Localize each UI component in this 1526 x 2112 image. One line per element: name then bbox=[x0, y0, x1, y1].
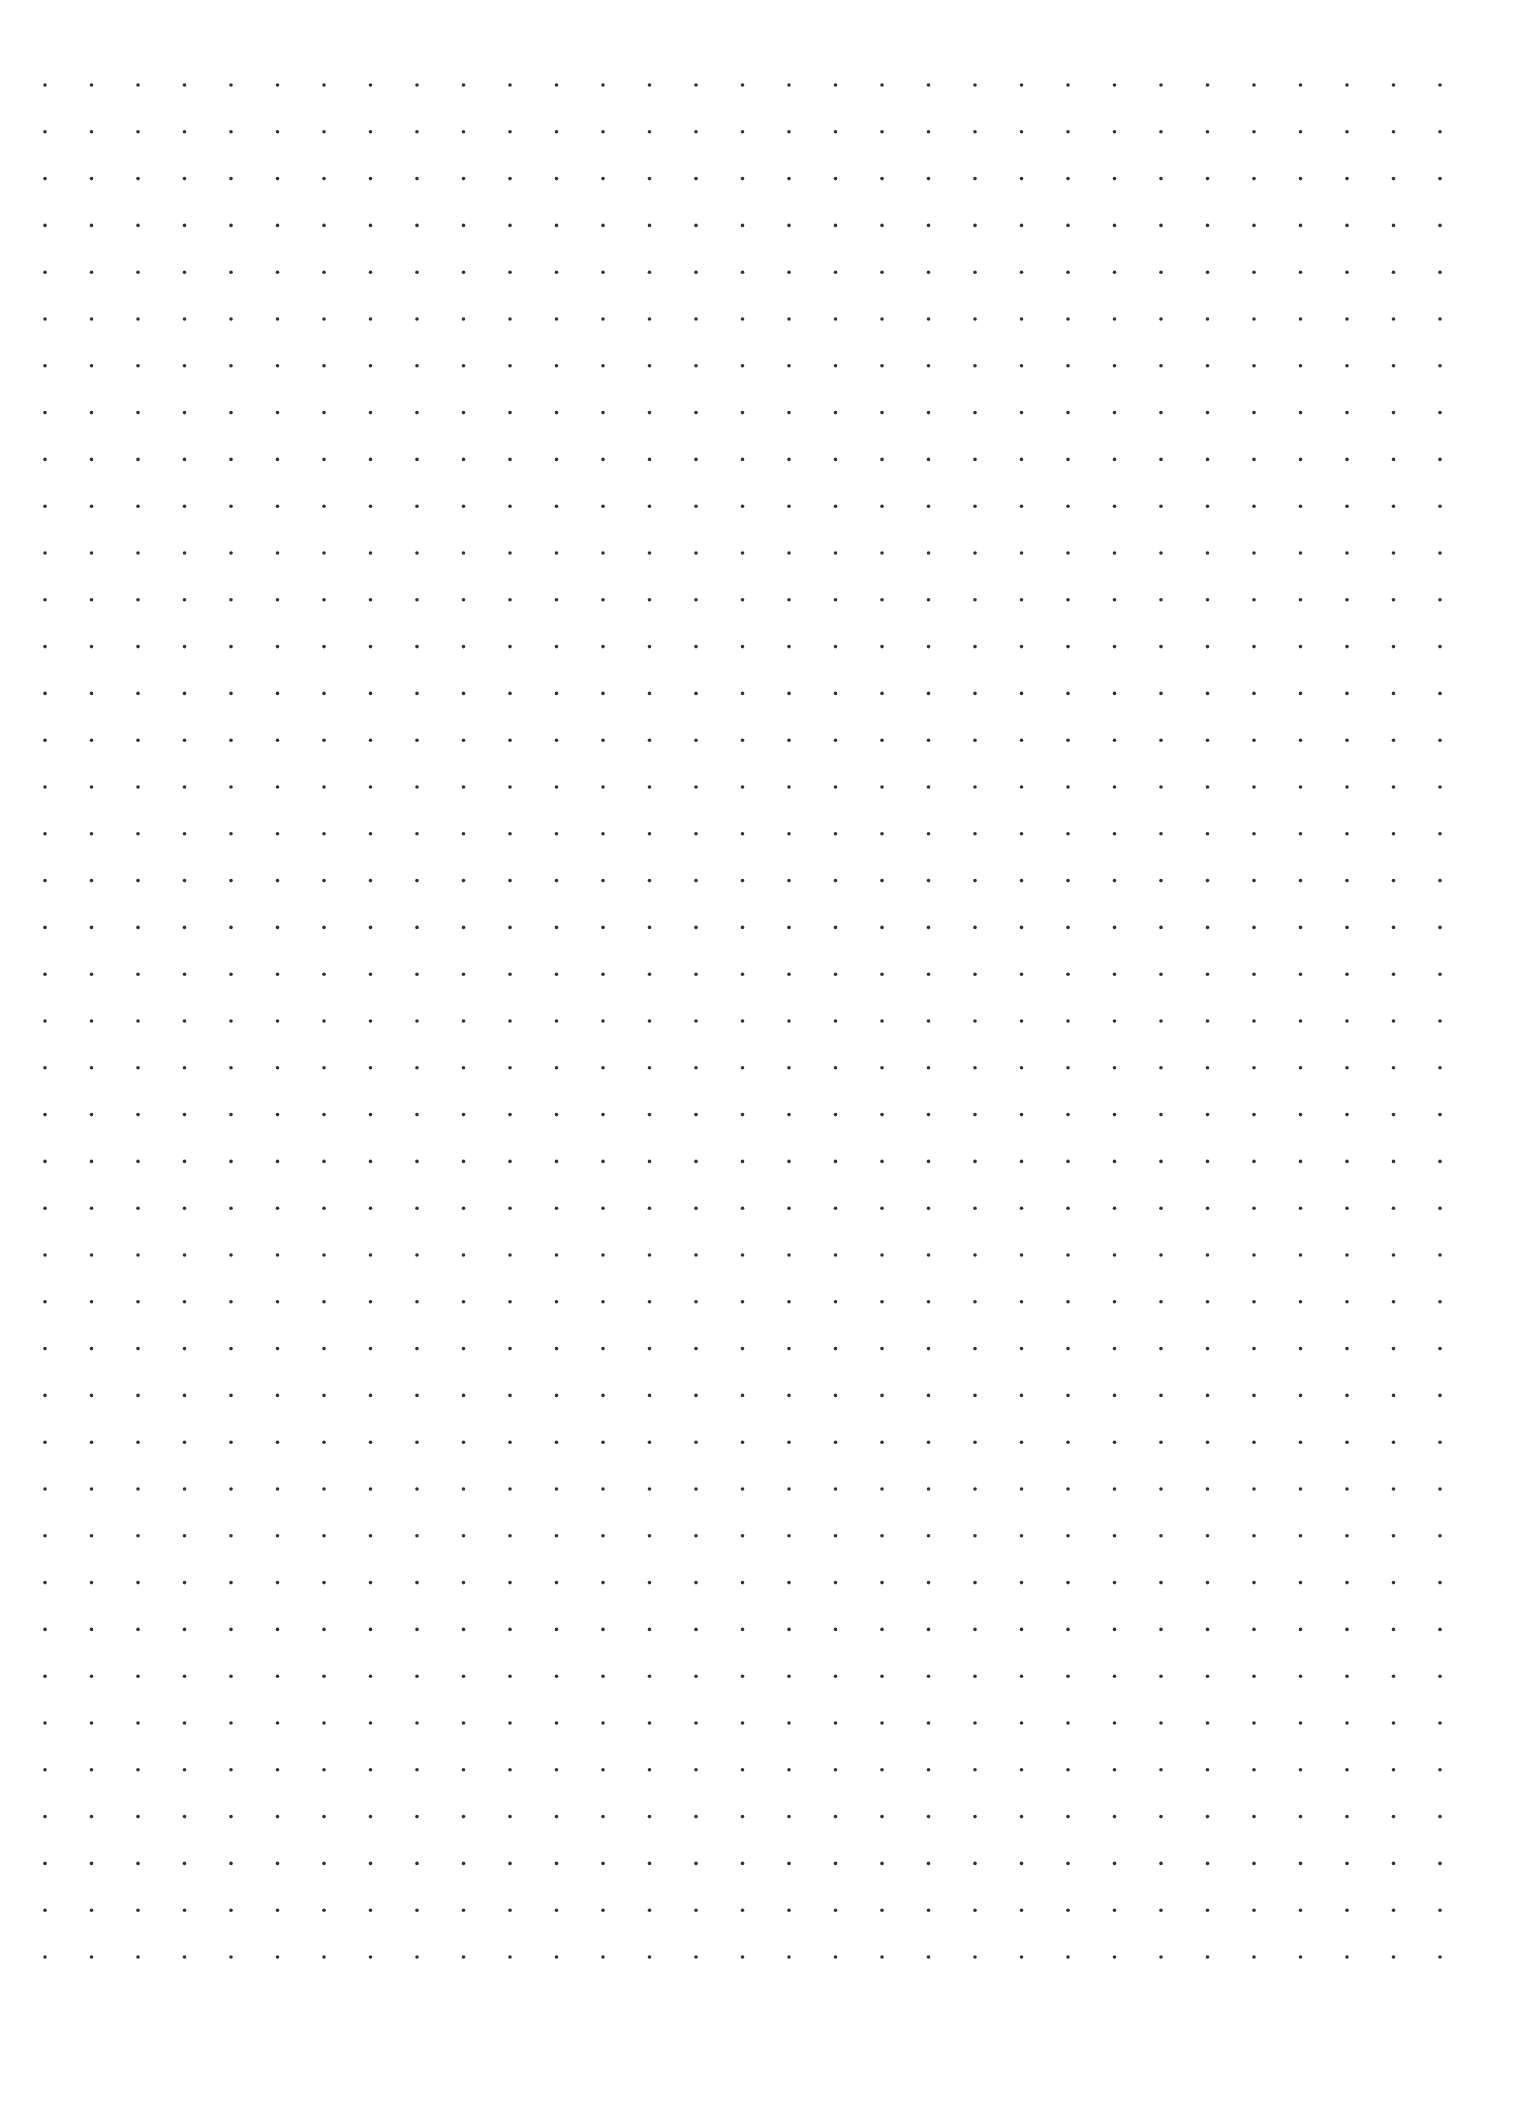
grid-dot bbox=[415, 551, 419, 555]
grid-dot bbox=[1438, 1721, 1442, 1725]
grid-dot bbox=[276, 1674, 280, 1678]
grid-dot bbox=[322, 1206, 326, 1210]
grid-dot bbox=[555, 1019, 559, 1023]
grid-dot bbox=[1206, 458, 1210, 462]
grid-dot bbox=[462, 1206, 466, 1210]
grid-dot bbox=[1299, 1253, 1303, 1257]
grid-dot bbox=[1206, 1768, 1210, 1772]
grid-dot bbox=[1299, 1066, 1303, 1070]
grid-dot bbox=[973, 1721, 977, 1725]
grid-dot bbox=[1066, 1066, 1070, 1070]
grid-dot bbox=[694, 1300, 698, 1304]
grid-dot bbox=[1438, 1066, 1442, 1070]
grid-dot bbox=[462, 1066, 466, 1070]
grid-dot bbox=[90, 1394, 94, 1398]
grid-dot bbox=[927, 1862, 931, 1866]
grid-dot bbox=[555, 411, 559, 415]
grid-dot bbox=[1206, 926, 1210, 930]
grid-dot bbox=[1438, 83, 1442, 87]
grid-dot bbox=[322, 692, 326, 696]
grid-dot bbox=[787, 1674, 791, 1678]
grid-dot bbox=[462, 1628, 466, 1632]
grid-dot bbox=[1299, 551, 1303, 555]
grid-dot bbox=[694, 411, 698, 415]
grid-dot bbox=[927, 692, 931, 696]
grid-dot bbox=[508, 1206, 512, 1210]
grid-dot bbox=[415, 1908, 419, 1912]
grid-dot bbox=[1345, 270, 1349, 274]
grid-dot bbox=[555, 177, 559, 181]
grid-dot bbox=[1299, 832, 1303, 836]
grid-dot bbox=[1299, 1862, 1303, 1866]
grid-dot bbox=[90, 785, 94, 789]
grid-dot bbox=[927, 1674, 931, 1678]
grid-dot bbox=[834, 1206, 838, 1210]
grid-dot bbox=[787, 1721, 791, 1725]
grid-dot bbox=[229, 1253, 233, 1257]
grid-dot bbox=[1299, 130, 1303, 134]
grid-dot bbox=[834, 1768, 838, 1772]
grid-dot bbox=[183, 551, 187, 555]
grid-dot bbox=[229, 1628, 233, 1632]
grid-dot bbox=[648, 1440, 652, 1444]
grid-dot bbox=[276, 1815, 280, 1819]
grid-dot bbox=[1020, 1955, 1024, 1959]
grid-dot bbox=[136, 177, 140, 181]
grid-dot bbox=[508, 1534, 512, 1538]
grid-dot bbox=[508, 1674, 512, 1678]
grid-dot bbox=[741, 1908, 745, 1912]
grid-dot bbox=[834, 224, 838, 228]
grid-dot bbox=[90, 1113, 94, 1117]
grid-dot bbox=[1206, 364, 1210, 368]
grid-dot bbox=[1438, 926, 1442, 930]
grid-dot bbox=[1252, 364, 1256, 368]
grid-dot bbox=[1113, 645, 1117, 649]
grid-dot bbox=[927, 972, 931, 976]
grid-dot bbox=[834, 1581, 838, 1585]
grid-dot bbox=[834, 458, 838, 462]
grid-dot bbox=[43, 1394, 47, 1398]
grid-dot bbox=[1438, 224, 1442, 228]
grid-dot bbox=[601, 1160, 605, 1164]
grid-dot bbox=[183, 1019, 187, 1023]
grid-dot bbox=[973, 1113, 977, 1117]
grid-dot bbox=[741, 1347, 745, 1351]
grid-dot bbox=[1438, 598, 1442, 602]
grid-dot bbox=[1020, 1628, 1024, 1632]
grid-dot bbox=[1252, 1628, 1256, 1632]
grid-dot bbox=[555, 1862, 559, 1866]
grid-dot bbox=[229, 1815, 233, 1819]
grid-dot bbox=[1020, 1721, 1024, 1725]
grid-dot bbox=[880, 224, 884, 228]
grid-dot bbox=[834, 551, 838, 555]
grid-dot bbox=[1159, 1206, 1163, 1210]
grid-dot bbox=[229, 645, 233, 649]
grid-dot bbox=[787, 1394, 791, 1398]
grid-dot bbox=[90, 1160, 94, 1164]
grid-dot bbox=[369, 1066, 373, 1070]
grid-dot bbox=[1159, 1440, 1163, 1444]
grid-dot bbox=[1206, 1721, 1210, 1725]
grid-dot bbox=[973, 1300, 977, 1304]
grid-dot bbox=[834, 130, 838, 134]
grid-dot bbox=[508, 458, 512, 462]
grid-dot bbox=[927, 1019, 931, 1023]
grid-dot bbox=[741, 1394, 745, 1398]
grid-dot bbox=[322, 1955, 326, 1959]
grid-dot bbox=[648, 1113, 652, 1117]
grid-dot bbox=[1299, 1721, 1303, 1725]
grid-dot bbox=[1020, 83, 1024, 87]
grid-dot bbox=[1206, 1113, 1210, 1117]
grid-dot bbox=[1066, 270, 1070, 274]
grid-dot bbox=[880, 1721, 884, 1725]
grid-dot bbox=[694, 1815, 698, 1819]
grid-dot bbox=[787, 1487, 791, 1491]
grid-dot bbox=[648, 785, 652, 789]
grid-dot bbox=[1020, 926, 1024, 930]
grid-dot bbox=[927, 224, 931, 228]
grid-dot bbox=[1113, 1300, 1117, 1304]
grid-dot bbox=[1392, 692, 1396, 696]
grid-dot bbox=[834, 972, 838, 976]
grid-dot bbox=[648, 1300, 652, 1304]
grid-dot bbox=[43, 1534, 47, 1538]
